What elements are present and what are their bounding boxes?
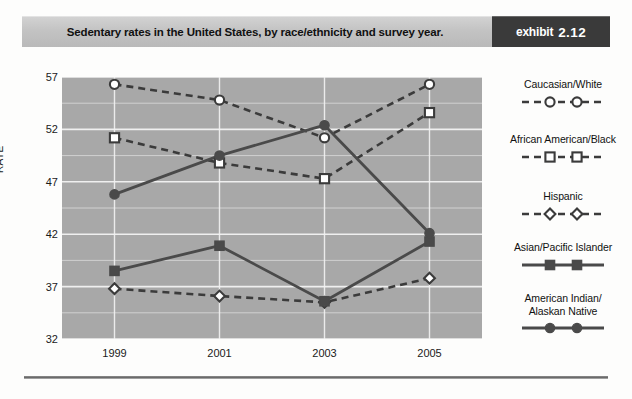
- legend-item[interactable]: Hispanic: [494, 190, 632, 221]
- legend-swatch: [494, 95, 632, 109]
- y-axis-tick: 37: [24, 281, 58, 293]
- data-point: [110, 80, 119, 89]
- x-axis-tick-labels: 1999200120032005: [62, 347, 482, 365]
- footer-divider: [24, 376, 608, 379]
- data-point: [215, 151, 224, 160]
- legend-item-label-line2: Alaskan Native: [494, 305, 632, 318]
- exhibit-badge: exhibit 2.12: [492, 16, 610, 47]
- legend-swatch: [494, 150, 632, 164]
- y-axis-tick: 42: [24, 228, 58, 240]
- legend-item-label: Asian/Pacific Islander: [494, 241, 632, 254]
- data-point: [215, 241, 224, 250]
- exhibit-header: Sedentary rates in the United States, by…: [22, 16, 610, 47]
- plot-area: [62, 77, 482, 339]
- y-axis-tick: 57: [24, 71, 58, 83]
- x-axis-tick: 1999: [102, 347, 126, 359]
- data-point: [110, 133, 119, 142]
- data-point: [425, 80, 434, 89]
- legend-item-label: African American/Black: [494, 133, 632, 146]
- y-axis-tick-labels: 323742475257: [18, 77, 58, 339]
- data-point: [425, 108, 434, 117]
- legend-item[interactable]: Asian/Pacific Islander: [494, 241, 632, 272]
- legend-item[interactable]: American Indian/Alaskan Native: [494, 292, 632, 335]
- exhibit-number: 2.12: [558, 25, 586, 40]
- data-point: [215, 95, 224, 104]
- data-point: [320, 297, 329, 306]
- x-axis-tick: 2001: [207, 347, 231, 359]
- exhibit-page: Sedentary rates in the United States, by…: [0, 0, 632, 399]
- legend-item-label: Hispanic: [494, 190, 632, 203]
- data-point: [214, 291, 225, 302]
- exhibit-title-bar: Sedentary rates in the United States, by…: [22, 16, 492, 47]
- data-point: [109, 283, 120, 294]
- data-point: [424, 273, 435, 284]
- data-point: [320, 121, 329, 130]
- data-point: [110, 266, 119, 275]
- y-axis-tick: 32: [24, 333, 58, 345]
- legend-swatch: [494, 321, 632, 335]
- page-title: Sedentary rates in the United States, by…: [67, 26, 444, 38]
- plot-svg: [62, 77, 482, 339]
- legend-item-label: American Indian/Alaskan Native: [494, 292, 632, 317]
- y-axis-tick: 52: [24, 123, 58, 135]
- chart-legend: Caucasian/WhiteAfrican American/BlackHis…: [494, 78, 632, 343]
- legend-swatch: [494, 258, 632, 272]
- legend-item-label: Caucasian/White: [494, 78, 632, 91]
- x-axis-tick: 2005: [417, 347, 441, 359]
- data-point: [425, 229, 434, 238]
- data-point: [320, 133, 329, 142]
- data-point: [320, 174, 329, 183]
- y-axis-tick: 47: [24, 176, 58, 188]
- y-axis-label: RATE: [0, 145, 5, 173]
- legend-swatch: [494, 207, 632, 221]
- x-axis-tick: 2003: [312, 347, 336, 359]
- legend-item[interactable]: Caucasian/White: [494, 78, 632, 109]
- data-point: [110, 190, 119, 199]
- legend-item[interactable]: African American/Black: [494, 133, 632, 164]
- exhibit-label: exhibit: [516, 25, 553, 39]
